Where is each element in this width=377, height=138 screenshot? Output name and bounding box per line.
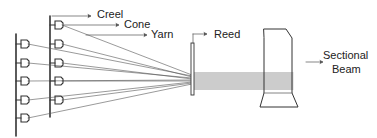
diagram-canvas — [0, 0, 377, 138]
cone-icon — [16, 77, 29, 85]
cone-icon — [16, 114, 29, 122]
label-yarn: Yarn — [151, 29, 173, 40]
cones-right — [50, 21, 63, 104]
label-sectional: Sectional — [323, 50, 368, 61]
label-cone: Cone — [124, 19, 150, 30]
cone-icon — [16, 59, 29, 67]
yarn-sheet — [192, 73, 293, 89]
cone-icon — [16, 96, 29, 104]
pointer-arrows — [52, 15, 323, 64]
sectional-beam — [260, 29, 298, 107]
label-reed: Reed — [214, 29, 240, 40]
label-beam: Beam — [332, 64, 361, 75]
cone-icon — [50, 21, 63, 29]
cone-icon — [16, 40, 29, 48]
cone-icon — [50, 40, 63, 48]
cones-left — [16, 40, 29, 122]
label-creel: Creel — [97, 9, 123, 20]
reed — [191, 43, 194, 95]
